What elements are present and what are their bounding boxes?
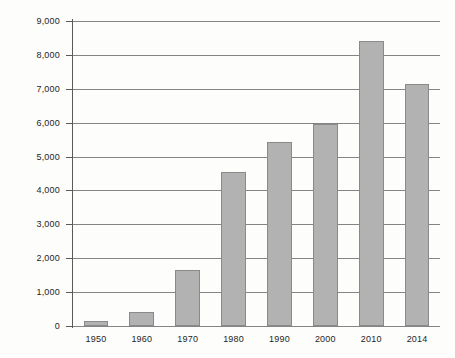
plot-area (73, 21, 440, 326)
gridline (73, 123, 440, 124)
y-axis-tick (66, 292, 72, 293)
y-axis-tick (66, 190, 72, 191)
y-axis-tick-label: 6,000 (4, 118, 60, 128)
y-axis-tick (66, 21, 72, 22)
y-axis-tick-label: 9,000 (4, 16, 60, 26)
bar (359, 41, 384, 326)
bar (405, 84, 430, 326)
gridline (73, 258, 440, 259)
bar (267, 142, 292, 326)
bar-chart: Enrollment (1,000) 9,0008,0007,0006,0005… (0, 0, 455, 358)
y-axis-tick-label: 3,000 (4, 219, 60, 229)
gridline (73, 89, 440, 90)
gridline (73, 326, 440, 327)
x-axis-tick-label: 1960 (131, 334, 152, 344)
y-axis-tick-label: 1,000 (4, 287, 60, 297)
y-axis-tick (66, 89, 72, 90)
bar (313, 124, 338, 326)
y-axis-tick (66, 55, 72, 56)
y-axis-tick-label: 0 (4, 321, 60, 331)
bar (84, 321, 109, 326)
x-axis-tick-label: 1970 (177, 334, 198, 344)
x-axis-tick-label: 1980 (223, 334, 244, 344)
bar (129, 312, 154, 326)
x-axis-tick-label: 2014 (407, 334, 428, 344)
y-axis-tick-label: 5,000 (4, 152, 60, 162)
gridline (73, 292, 440, 293)
y-axis-tick (66, 326, 72, 327)
x-axis-tick-label: 2010 (361, 334, 382, 344)
x-axis-tick-label: 1950 (86, 334, 107, 344)
y-axis-tick-label: 4,000 (4, 185, 60, 195)
y-axis-tick (66, 157, 72, 158)
bar (175, 270, 200, 326)
x-axis-tick-label: 1990 (269, 334, 290, 344)
bar (221, 172, 246, 326)
gridline (73, 55, 440, 56)
gridline (73, 190, 440, 191)
x-axis-tick-label: 2000 (315, 334, 336, 344)
y-axis-tick-label: 7,000 (4, 84, 60, 94)
gridline (73, 21, 440, 22)
y-axis-tick-label: 2,000 (4, 253, 60, 263)
y-axis-tick (66, 258, 72, 259)
y-axis-tick (66, 224, 72, 225)
gridline (73, 224, 440, 225)
y-axis-tick-label: 8,000 (4, 50, 60, 60)
y-axis-tick (66, 123, 72, 124)
gridline (73, 157, 440, 158)
